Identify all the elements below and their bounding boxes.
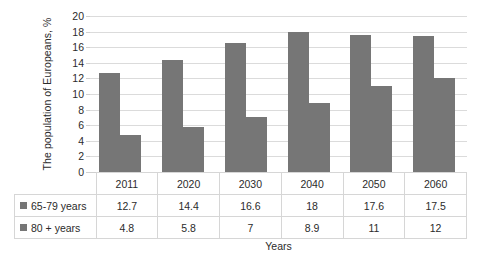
table-header-year: 2060 [405,173,467,195]
bar [246,117,267,172]
gridline [90,156,467,157]
bar [162,60,183,172]
y-axis-tick-labels: 20181614121086420 [56,16,84,172]
legend-entry: 80 + years [15,217,97,239]
table-cell-value: 16.6 [220,195,282,217]
table-cell-value: 17.6 [343,195,405,217]
table-cell-value: 5.8 [158,217,220,239]
table-row: 65-79 years12.714.416.61817.617.5 [15,195,467,217]
y-axis-tick-label: 10 [58,89,84,99]
gridline [90,16,467,17]
bar [183,127,204,172]
table-cell-value: 12 [405,217,467,239]
bar [434,78,455,172]
table-header-year: 2030 [220,173,282,195]
bar [371,86,392,172]
bar [120,135,141,172]
data-table-body: 20112020203020402050206065-79 years12.71… [15,173,467,239]
legend-label: 80 + years [31,222,80,234]
bar [309,103,330,172]
bar-group [99,16,141,172]
bar-group [162,16,204,172]
y-axis-tick-label: 6 [58,120,84,130]
bar-group [413,16,455,172]
gridline [90,141,467,142]
gridline [90,94,467,95]
bar [99,73,120,172]
table-cell-value: 8.9 [281,217,343,239]
data-table: 20112020203020402050206065-79 years12.71… [14,172,467,239]
bar [225,43,246,172]
x-axis-title: Years [90,240,467,252]
y-axis-tick-label: 16 [58,42,84,52]
table-header-year: 2040 [281,173,343,195]
y-axis-title: The population of Europeans, % [41,1,53,187]
legend-swatch-icon [20,224,27,231]
table-header-year: 2011 [96,173,158,195]
gridline [90,63,467,64]
table-row: 80 + years4.85.878.91112 [15,217,467,239]
bar-group [225,16,267,172]
table-header-year: 2020 [158,173,220,195]
table-cell-value: 14.4 [158,195,220,217]
gridline [90,32,467,33]
table-cell-value: 4.8 [96,217,158,239]
y-axis-tick-label: 14 [58,58,84,68]
gridline [90,47,467,48]
table-cell-value: 11 [343,217,405,239]
bar [288,32,309,172]
y-axis-tick-label: 4 [58,136,84,146]
y-axis-tick-label: 20 [58,11,84,21]
bar-group [350,16,392,172]
y-axis-tick-label: 8 [58,105,84,115]
table-header-row: 201120202030204020502060 [15,173,467,195]
y-axis-tick-label: 2 [58,151,84,161]
table-header-year: 2050 [343,173,405,195]
table-header-corner [15,173,97,195]
legend-swatch-icon [20,202,27,209]
table-cell-value: 7 [220,217,282,239]
table-cell-value: 12.7 [96,195,158,217]
table-cell-value: 17.5 [405,195,467,217]
bar [413,36,434,173]
y-axis-tick-label: 18 [58,27,84,37]
bar-chart-figure: The population of Europeans, % 201816141… [0,0,481,272]
gridline [90,125,467,126]
table-cell-value: 18 [281,195,343,217]
gridline [90,78,467,79]
legend-entry: 65-79 years [15,195,97,217]
y-axis-tick-label: 12 [58,73,84,83]
plot-area [90,16,467,172]
legend-label: 65-79 years [31,200,86,212]
bar-group [288,16,330,172]
bar [350,35,371,172]
gridline [90,110,467,111]
